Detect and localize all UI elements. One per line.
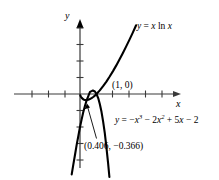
x-axis-label: x (176, 99, 180, 109)
log-curve-label: y = x ln x (137, 22, 172, 32)
plot-canvas (0, 0, 219, 180)
y-axis-label: y (65, 11, 69, 21)
cubic-curve (72, 91, 110, 178)
cubic-curve-label: y = −x3 − 2x2 + 5x − 2 (115, 116, 198, 126)
intersection-point-label: (1, 0) (112, 81, 133, 91)
tangency-leader-line (85, 104, 97, 139)
x-axis-arrow-icon (173, 91, 181, 97)
y-axis-arrow-icon (77, 19, 84, 28)
graph-figure: y = x ln x y = −x3 − 2x2 + 5x − 2 (1, 0)… (0, 0, 219, 180)
tangency-point-label: (0.406, −0.366) (84, 142, 143, 152)
